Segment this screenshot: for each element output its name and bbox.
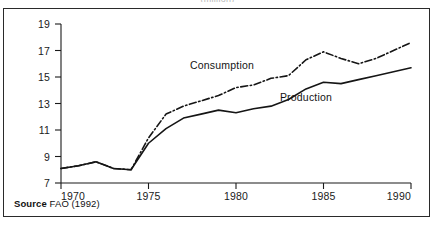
x-tick-label: 1975 [136,190,160,202]
y-tick-label: 7 [44,177,50,189]
y-tick-label: 17 [38,45,50,57]
x-tick-label: 1990 [387,190,411,202]
source-note-label: Source [14,198,47,209]
x-tick-label: 1980 [224,190,248,202]
y-tick-label: 9 [44,151,50,163]
x-axis-tick-labels: 1970 1975 1980 1985 1990 [61,190,411,202]
x-axis-tick-marks [61,183,411,189]
chart-axes [61,24,411,183]
y-tick-label: 13 [38,98,50,110]
x-tick-label: 1985 [311,190,335,202]
line-chart: 19 17 15 13 11 9 7 1970 1975 1980 1985 1… [3,8,430,217]
production-series-label: Production [280,91,332,103]
figure-title-clipped: (million) [0,0,435,2]
y-tick-label: 15 [38,71,50,83]
figure-container: (million) 19 17 15 13 11 [0,0,435,226]
y-axis-tick-labels: 19 17 15 13 11 9 7 [38,18,50,189]
y-tick-label: 11 [39,124,50,136]
production-line [61,68,411,170]
y-tick-label: 19 [38,18,50,30]
consumption-series-label: Consumption [190,59,254,71]
y-axis-tick-marks [55,24,61,183]
source-note-value: FAO (1992) [50,198,100,209]
source-note: Source FAO (1992) [14,198,100,209]
